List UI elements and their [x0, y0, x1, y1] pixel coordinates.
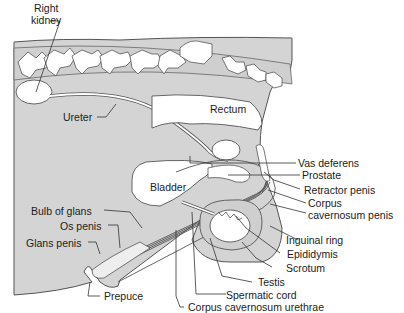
label-bladder: Bladder — [150, 181, 186, 193]
label-epididymis: Epididymis — [287, 248, 338, 260]
right-kidney-shape — [16, 80, 52, 104]
label-right-kidney-line2: kidney — [31, 14, 61, 26]
label-ureter: Ureter — [63, 111, 92, 123]
label-retractor-penis: Retractor penis — [304, 184, 375, 196]
label-vas-deferens: Vas deferens — [298, 157, 359, 169]
label-right-kidney-line1: Right — [31, 2, 61, 14]
label-testis: Testis — [258, 276, 285, 288]
label-ccp-line2: cavernosum penis — [308, 209, 393, 221]
label-inguinal-ring: Inguinal ring — [286, 234, 343, 246]
label-scrotum: Scrotum — [286, 262, 325, 274]
label-rectum: Rectum — [210, 103, 246, 115]
label-prepuce: Prepuce — [104, 290, 143, 302]
label-corpus-cavernosum-urethrae: Corpus cavernosum urethrae — [188, 301, 324, 313]
label-prostate: Prostate — [302, 169, 341, 181]
prostate-shape — [212, 140, 240, 160]
label-glans-penis: Glans penis — [26, 237, 81, 249]
label-os-penis: Os penis — [60, 220, 101, 232]
label-spermatic-cord: Spermatic cord — [226, 289, 297, 301]
label-right-kidney: Right kidney — [31, 2, 61, 26]
label-ccp-line1: Corpus — [308, 197, 393, 209]
label-corpus-cavernosum-penis: Corpus cavernosum penis — [308, 197, 393, 221]
label-bulb-of-glans: Bulb of glans — [31, 205, 92, 217]
